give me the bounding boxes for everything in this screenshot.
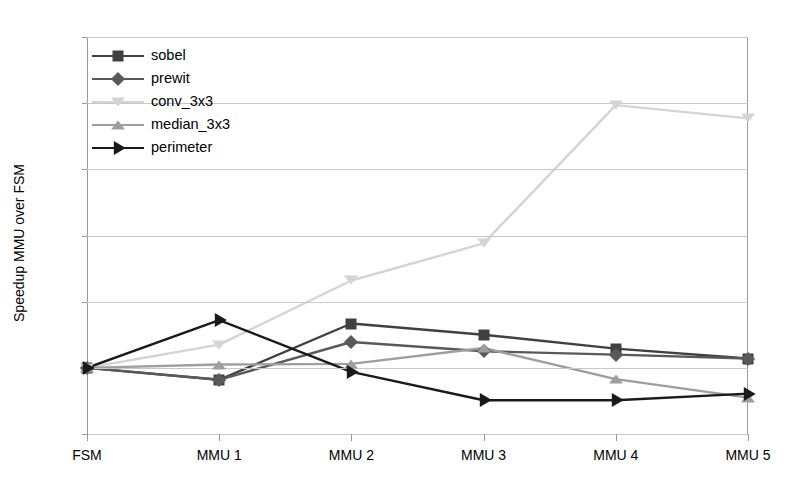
x-axis-tick-label: MMU 2 bbox=[329, 448, 374, 462]
y-axis-tick-mark bbox=[82, 302, 87, 303]
legend-marker bbox=[113, 50, 124, 61]
data-point-marker bbox=[347, 365, 359, 379]
data-point-marker bbox=[346, 318, 357, 329]
data-point-marker bbox=[344, 276, 358, 285]
data-point-marker bbox=[741, 114, 755, 123]
legend-item-median-3x3: median_3x3 bbox=[92, 113, 242, 136]
gridline bbox=[87, 368, 748, 369]
x-axis-tick-mark bbox=[219, 434, 220, 441]
x-axis-tick-mark bbox=[748, 434, 749, 441]
legend-label: sobel bbox=[151, 48, 186, 63]
legend-marker-icon bbox=[92, 140, 144, 156]
data-point-marker bbox=[83, 361, 95, 375]
legend-marker bbox=[114, 141, 126, 155]
legend-label: prewit bbox=[151, 71, 190, 86]
y-axis-tick-mark bbox=[82, 37, 87, 38]
gridline bbox=[87, 236, 748, 237]
series-line bbox=[87, 342, 748, 380]
x-axis-tick-label: MMU 4 bbox=[593, 448, 638, 462]
legend-label: conv_3x3 bbox=[151, 94, 213, 109]
x-axis-tick-label: MMU 3 bbox=[461, 448, 506, 462]
legend-marker-icon bbox=[92, 48, 144, 64]
data-point-marker bbox=[212, 340, 226, 349]
legend-label: median_3x3 bbox=[151, 117, 230, 132]
gridline bbox=[87, 302, 748, 303]
x-axis-tick-label: MMU 1 bbox=[197, 448, 242, 462]
x-axis-tick-label: FSM bbox=[72, 448, 102, 462]
data-point-marker bbox=[609, 375, 623, 384]
legend-marker-icon bbox=[92, 94, 144, 110]
data-point-marker bbox=[477, 343, 491, 352]
legend-marker bbox=[111, 97, 125, 106]
legend-marker-icon bbox=[92, 117, 144, 133]
legend-item-sobel: sobel bbox=[92, 44, 242, 67]
data-point-marker bbox=[477, 239, 491, 248]
x-axis-tick-mark bbox=[351, 434, 352, 441]
y-axis-title-label: Speedup MMU over FSM bbox=[11, 164, 27, 322]
legend-item-conv-3x3: conv_3x3 bbox=[92, 90, 242, 113]
gridline bbox=[87, 169, 748, 170]
data-point-marker bbox=[478, 329, 489, 340]
legend-item-prewit: prewit bbox=[92, 67, 242, 90]
legend-item-perimeter: perimeter bbox=[92, 136, 242, 159]
gridline bbox=[87, 37, 748, 38]
x-axis-tick-mark bbox=[484, 434, 485, 441]
chart-legend: sobelprewitconv_3x3median_3x3perimeter bbox=[92, 44, 242, 159]
data-point-marker bbox=[612, 393, 624, 407]
y-axis-title: Speedup MMU over FSM bbox=[8, 0, 30, 486]
y-axis-tick-mark bbox=[82, 103, 87, 104]
x-axis-tick-mark bbox=[87, 434, 88, 441]
x-axis-tick-mark bbox=[616, 434, 617, 441]
data-point-marker bbox=[215, 313, 227, 327]
data-point-marker bbox=[479, 393, 491, 407]
chart-page: Speedup MMU over FSM 0123456 FSMMMU 1MMU… bbox=[0, 0, 800, 486]
legend-label: perimeter bbox=[151, 140, 212, 155]
data-point-marker bbox=[744, 387, 756, 401]
x-axis-tick-label: MMU 5 bbox=[725, 448, 770, 462]
gridline bbox=[87, 434, 748, 435]
legend-marker-icon bbox=[92, 71, 144, 87]
y-axis-tick-mark bbox=[82, 236, 87, 237]
series-line bbox=[87, 320, 748, 400]
data-point-marker bbox=[212, 360, 226, 369]
legend-marker bbox=[111, 71, 125, 85]
y-axis-tick-mark bbox=[82, 169, 87, 170]
data-point-marker bbox=[609, 101, 623, 110]
legend-marker bbox=[111, 120, 125, 129]
